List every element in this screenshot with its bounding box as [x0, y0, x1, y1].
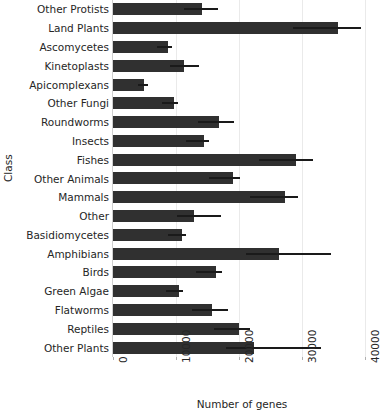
- bar-row: [113, 94, 371, 113]
- bar-row: [113, 244, 371, 263]
- bar-row: [113, 225, 371, 244]
- bar-row: [113, 56, 371, 75]
- bar-row: [113, 150, 371, 169]
- y-tick-label: Birds: [83, 267, 109, 278]
- bar-row: [113, 132, 371, 151]
- bar-row: [113, 301, 371, 320]
- error-bar: [170, 65, 199, 67]
- y-tick-label: Basidiomycetes: [26, 229, 109, 240]
- y-tick-label: Other: [79, 211, 109, 222]
- y-tick-label: Apicomplexans: [29, 79, 109, 90]
- x-tick-label: 10000: [180, 330, 192, 363]
- y-tick-labels: Other ProtistsLand PlantsAscomycetesKine…: [0, 0, 109, 357]
- error-bar: [184, 8, 218, 10]
- error-bar: [157, 46, 172, 48]
- error-bar: [177, 215, 221, 217]
- error-bar: [209, 177, 240, 179]
- y-tick-label: Mammals: [58, 192, 109, 203]
- error-bar: [138, 84, 149, 86]
- bar-row: [113, 19, 371, 38]
- y-tick-label: Other Protists: [37, 4, 109, 15]
- y-tick-label: Fishes: [77, 154, 109, 165]
- y-tick-label: Green Algae: [44, 286, 109, 297]
- error-bar: [186, 140, 209, 142]
- error-bar: [162, 102, 179, 104]
- bars-layer: [113, 0, 371, 357]
- x-tick-label: 0: [117, 356, 129, 363]
- bar-row: [113, 263, 371, 282]
- bar-row: [113, 207, 371, 226]
- y-tick-label: Other Fungi: [47, 98, 109, 109]
- y-tick-label: Insects: [72, 135, 109, 146]
- bar-row: [113, 75, 371, 94]
- y-tick-label: Reptiles: [67, 323, 109, 334]
- bar-row: [113, 282, 371, 301]
- bar-row: [113, 338, 371, 357]
- y-tick-label: Kinetoplasts: [44, 60, 109, 71]
- error-bar: [196, 271, 223, 273]
- error-bar: [259, 159, 313, 161]
- error-bar: [166, 290, 184, 292]
- x-tick: [176, 357, 177, 360]
- x-tick: [239, 357, 240, 360]
- plot-area: [113, 0, 371, 357]
- error-bar: [168, 234, 186, 236]
- error-bar: [198, 121, 234, 123]
- bar-row: [113, 0, 371, 19]
- bar-row: [113, 169, 371, 188]
- bar-row: [113, 319, 371, 338]
- y-tick-label: Ascomycetes: [39, 41, 109, 52]
- x-axis-title: Number of genes: [113, 398, 371, 410]
- y-tick-label: Roundworms: [41, 117, 109, 128]
- x-tick: [113, 357, 114, 360]
- error-bar: [293, 27, 361, 29]
- bar-row: [113, 113, 371, 132]
- x-tick-label: 40000: [369, 330, 381, 363]
- y-tick-label: Land Plants: [48, 23, 109, 34]
- error-bar: [192, 309, 227, 311]
- bar-row: [113, 188, 371, 207]
- error-bar: [246, 253, 331, 255]
- y-tick-label: Other Plants: [44, 342, 109, 353]
- x-tick-label: 20000: [243, 330, 255, 363]
- y-tick-label: Flatworms: [55, 305, 109, 316]
- y-tick-label: Amphibians: [47, 248, 109, 259]
- x-tick: [365, 357, 366, 360]
- x-tick-label: 30000: [306, 330, 318, 363]
- error-bar: [250, 196, 298, 198]
- x-tick: [302, 357, 303, 360]
- bar-row: [113, 38, 371, 57]
- y-axis-title: Class: [2, 154, 14, 182]
- y-tick-label: Other Animals: [34, 173, 109, 184]
